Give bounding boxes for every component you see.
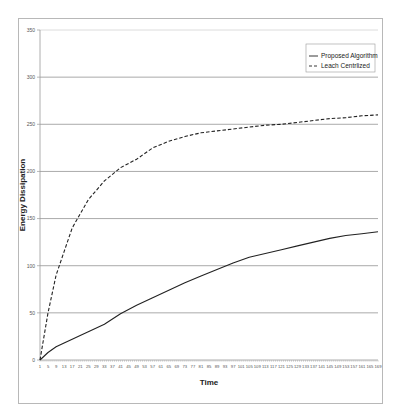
y-tick-label: 250 bbox=[27, 121, 36, 127]
data-series bbox=[40, 115, 378, 360]
y-axis-title: Energy Dissipation bbox=[18, 159, 27, 232]
legend-label-leach: Leach Centrlized bbox=[321, 62, 370, 69]
x-tick-label: 117 bbox=[270, 364, 277, 369]
y-tick-label: 50 bbox=[29, 310, 35, 316]
x-tick-label: 61 bbox=[158, 364, 163, 369]
x-tick-label: 121 bbox=[278, 364, 286, 369]
x-tick-label: 169 bbox=[375, 364, 383, 369]
y-tick-label: 200 bbox=[27, 168, 36, 174]
x-tick-label: 137 bbox=[310, 364, 318, 369]
x-tick-label: 45 bbox=[126, 364, 131, 369]
x-tick-label: 21 bbox=[78, 364, 83, 369]
legend-label-proposed: Proposed Algorithm bbox=[321, 52, 378, 60]
y-tick-label: 350 bbox=[27, 27, 36, 33]
y-axis-ticks: 050100150200250300350 bbox=[27, 27, 40, 363]
x-tick-label: 53 bbox=[142, 364, 147, 369]
x-tick-label: 41 bbox=[118, 364, 123, 369]
x-tick-label: 93 bbox=[223, 364, 228, 369]
x-tick-label: 69 bbox=[174, 364, 179, 369]
x-tick-label: 101 bbox=[238, 364, 246, 369]
series-leach-centrlized bbox=[40, 115, 378, 360]
x-tick-label: 145 bbox=[326, 364, 334, 369]
x-tick-label: 25 bbox=[86, 364, 91, 369]
x-tick-label: 5 bbox=[47, 364, 50, 369]
x-tick-label: 73 bbox=[183, 364, 188, 369]
x-tick-label: 77 bbox=[191, 364, 196, 369]
line-chart: 050100150200250300350 159131721252933374… bbox=[0, 0, 402, 415]
x-tick-label: 33 bbox=[102, 364, 107, 369]
x-tick-label: 149 bbox=[334, 364, 342, 369]
x-tick-label: 125 bbox=[286, 364, 294, 369]
x-tick-label: 97 bbox=[231, 364, 236, 369]
x-tick-label: 65 bbox=[166, 364, 171, 369]
x-tick-label: 49 bbox=[134, 364, 139, 369]
x-tick-label: 89 bbox=[215, 364, 220, 369]
x-tick-label: 1 bbox=[39, 364, 42, 369]
legend: Proposed Algorithm Leach Centrlized bbox=[306, 44, 378, 72]
x-tick-label: 13 bbox=[62, 364, 67, 369]
x-tick-label: 37 bbox=[110, 364, 115, 369]
series-proposed-algorithm bbox=[40, 232, 378, 360]
x-tick-label: 157 bbox=[350, 364, 358, 369]
x-tick-label: 153 bbox=[342, 364, 350, 369]
x-tick-label: 17 bbox=[70, 364, 75, 369]
x-tick-label: 105 bbox=[246, 364, 254, 369]
x-tick-label: 141 bbox=[318, 364, 326, 369]
x-tick-label: 85 bbox=[207, 364, 212, 369]
x-tick-label: 81 bbox=[199, 364, 204, 369]
x-tick-label: 165 bbox=[366, 364, 374, 369]
gridlines bbox=[40, 30, 378, 313]
x-tick-label: 57 bbox=[150, 364, 155, 369]
x-tick-label: 113 bbox=[262, 364, 269, 369]
y-tick-label: 300 bbox=[27, 74, 36, 80]
x-axis-ticks: 1591317212529333741454953576165697377818… bbox=[39, 360, 382, 369]
x-tick-label: 161 bbox=[358, 364, 366, 369]
x-axis-title: Time bbox=[200, 378, 219, 387]
x-tick-label: 129 bbox=[294, 364, 302, 369]
y-tick-label: 0 bbox=[32, 357, 35, 363]
y-tick-label: 100 bbox=[27, 263, 36, 269]
x-tick-label: 29 bbox=[94, 364, 99, 369]
x-tick-label: 109 bbox=[254, 364, 262, 369]
y-tick-label: 150 bbox=[27, 215, 36, 221]
x-tick-label: 133 bbox=[302, 364, 310, 369]
x-tick-label: 9 bbox=[55, 364, 58, 369]
